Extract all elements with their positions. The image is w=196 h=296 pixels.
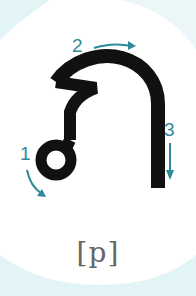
stroke-number-3: 3 [164, 120, 175, 139]
glyph-notch [56, 82, 96, 140]
stroke-number-2: 2 [72, 36, 83, 55]
arrow-2-icon [94, 44, 132, 48]
phonetic-label: [p] [0, 236, 196, 269]
stroke-number-1: 1 [20, 144, 31, 163]
arrow-1-icon [27, 170, 42, 194]
glyph-loop [41, 145, 71, 175]
